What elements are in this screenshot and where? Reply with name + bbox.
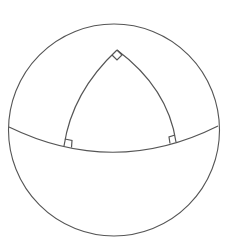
sphere-outline — [9, 24, 220, 236]
left-meridian-arc — [64, 50, 117, 146]
right-angle-marker-left — [65, 139, 72, 148]
sphere-diagram — [0, 0, 225, 237]
right-angle-marker-top — [112, 50, 122, 60]
right-angle-marker-right — [169, 135, 175, 144]
right-meridian-arc — [117, 50, 176, 142]
equator-arc — [9, 126, 218, 152]
